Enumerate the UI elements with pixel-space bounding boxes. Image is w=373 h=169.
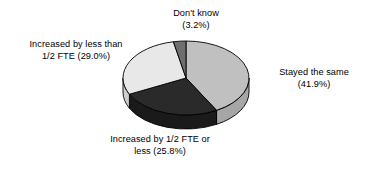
pie-label-increased-less-than-line1: Increased by less than bbox=[8, 39, 144, 51]
pie-label-increased-less-than: Increased by less than 1/2 FTE (29.0%) bbox=[8, 39, 144, 62]
pie-label-dont-know-line2: (3.2%) bbox=[148, 20, 244, 32]
pie-label-stayed-same-line2: (41.9%) bbox=[262, 79, 366, 91]
pie-label-dont-know: Don't know (3.2%) bbox=[148, 8, 244, 31]
pie-label-stayed-same: Stayed the same (41.9%) bbox=[262, 67, 366, 90]
pie-label-increased-half-or-less-line2: less (25.8%) bbox=[84, 146, 236, 158]
pie-label-increased-half-or-less: Increased by 1/2 FTE or less (25.8%) bbox=[84, 134, 236, 157]
pie-chart: Don't know (3.2%) Increased by less than… bbox=[0, 0, 373, 169]
pie-label-stayed-same-line1: Stayed the same bbox=[262, 67, 366, 79]
pie-label-increased-half-or-less-line1: Increased by 1/2 FTE or bbox=[84, 134, 236, 146]
pie-label-increased-less-than-line2: 1/2 FTE (29.0%) bbox=[8, 51, 144, 63]
pie-label-dont-know-line1: Don't know bbox=[148, 8, 244, 20]
